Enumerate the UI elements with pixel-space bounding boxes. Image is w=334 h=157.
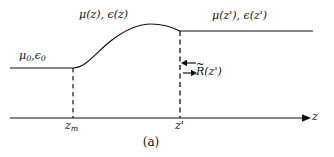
label-left-medium: μ0,ϵ0 [19, 50, 46, 63]
figure-drawing [0, 0, 334, 157]
graded-profile-curve [73, 24, 180, 68]
arrow-right-icon [183, 70, 197, 76]
arrow-left-icon [181, 60, 196, 66]
axis-label-z: z [312, 111, 318, 122]
zm-subscript: m [71, 124, 79, 133]
tick-label-zprime: z' [175, 120, 184, 131]
label-right-medium: μ(z'), ϵ(z') [212, 10, 267, 21]
reflection-symbol-group: ~R [196, 66, 204, 77]
tick-label-zm: zm [65, 120, 78, 133]
left-medium-eps-subscript: 0 [41, 54, 46, 63]
reflection-argument: (z') [204, 65, 221, 78]
label-middle-medium: μ(z), ϵ(z) [79, 9, 128, 20]
figure-container: μ0,ϵ0 μ(z), ϵ(z) μ(z'), ϵ(z') ~R(z') zm … [0, 0, 334, 157]
label-reflection-coefficient: ~R(z') [196, 66, 222, 77]
tilde-accent: ~ [196, 60, 204, 70]
figure-caption: (a) [143, 136, 160, 148]
arrow-right-icon [302, 114, 311, 122]
